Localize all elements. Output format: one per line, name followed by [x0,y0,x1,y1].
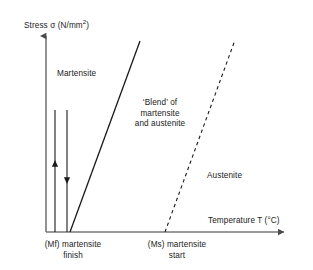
region-label-blend-line-1: ‘Blend’ of [124,98,196,109]
mf-axis-note: (Mf) martensite finish [24,240,122,261]
mf-axis-note-line-2: finish [24,251,122,262]
mf-axis-note-line-1: (Mf) martensite [24,240,122,251]
ms-axis-note-line-2: start [131,251,223,262]
y-axis-label-suffix: ) [86,21,89,30]
ms-boundary-line [165,40,235,232]
unloading-arrow-down-head [64,177,70,184]
region-label-blend-line-2: martensite [124,109,196,120]
y-axis-label: Stress σ (N/mm2) [24,21,89,32]
diagram-canvas [0,0,313,270]
ms-axis-note-line-1: (Ms) martensite [131,240,223,251]
stress-temperature-phase-diagram: Stress σ (N/mm2) Temperature T (°C) Mart… [0,0,313,270]
y-axis-label-text: Stress σ (N/mm [24,21,83,30]
region-label-martensite: Martensite [57,69,96,80]
region-label-blend-line-3: and austenite [124,119,196,130]
loading-arrow-up-head [52,160,58,167]
ms-axis-note: (Ms) martensite start [131,240,223,261]
x-axis-label: Temperature T (°C) [208,216,280,227]
region-label-blend: ‘Blend’ of martensite and austenite [124,98,196,130]
region-label-austenite: Austenite [207,171,242,182]
